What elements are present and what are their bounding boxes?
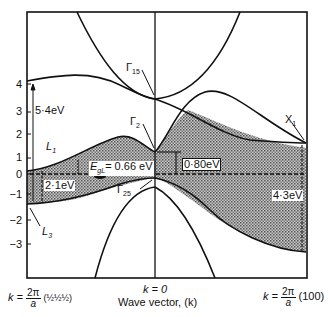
- annotation-5-4ev: 5·4eV: [35, 105, 64, 116]
- band-structure-plot: [0, 0, 328, 317]
- y-tick-neg3: −3: [4, 239, 22, 250]
- y-tick-2: 2: [4, 129, 22, 140]
- x-label-center: k = 0: [143, 284, 167, 295]
- y-tick-4: 4: [4, 79, 22, 90]
- y-tick-3: 3: [4, 106, 22, 117]
- annotation-0-80ev: 0·80eV: [182, 158, 221, 171]
- x-label-right: k = 2πa (100): [263, 287, 324, 308]
- y-tick-0: 0: [4, 169, 22, 180]
- annotation-egl: EgL= 0.66 eV: [89, 161, 154, 176]
- label-gamma25: Γ25: [117, 184, 131, 199]
- x-label-left: k = 2πa (½½½): [8, 288, 72, 309]
- annotation-2-1ev: 2·1eV: [44, 180, 75, 191]
- label-gamma2: Γ2: [130, 116, 140, 131]
- y-tick-1: 1: [4, 152, 22, 163]
- y-tick-neg2: −2: [4, 215, 22, 226]
- label-L3: L3: [42, 226, 52, 241]
- label-gamma15: Γ15: [126, 62, 140, 77]
- label-L1: L1: [46, 141, 56, 156]
- annotation-4-3ev: 4·3eV: [272, 190, 303, 201]
- x-axis-title: Wave vector, (k): [118, 297, 197, 308]
- y-tick-neg1: −1: [4, 189, 22, 200]
- label-X1: X1: [285, 114, 296, 129]
